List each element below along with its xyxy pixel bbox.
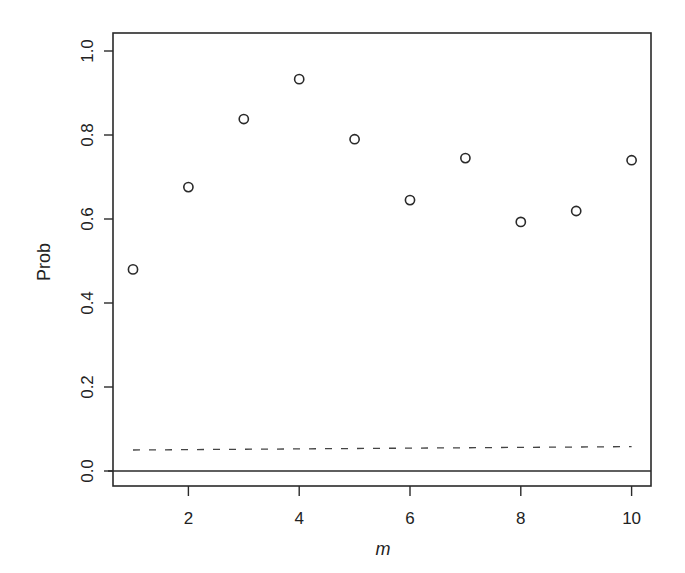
data-points <box>128 75 636 274</box>
plot-frame <box>113 33 651 486</box>
scatter-chart: 0.00.20.40.60.81.0 246810 m Prob <box>0 0 685 573</box>
y-axis: 0.00.20.40.60.81.0 <box>78 39 113 483</box>
data-point <box>128 265 137 274</box>
data-point <box>405 196 414 205</box>
y-tick-label: 0.8 <box>78 123 97 147</box>
data-point <box>627 156 636 165</box>
data-point <box>516 217 525 226</box>
y-tick-label: 0.4 <box>78 291 97 315</box>
y-tick-label: 0.0 <box>78 459 97 483</box>
data-point <box>184 182 193 191</box>
x-tick-label: 6 <box>405 509 414 528</box>
reference-lines <box>108 447 651 471</box>
y-axis-title: Prob <box>34 243 54 281</box>
x-tick-label: 10 <box>622 509 641 528</box>
x-axis: 246810 <box>184 486 641 528</box>
x-tick-label: 4 <box>294 509 303 528</box>
y-tick-label: 0.6 <box>78 207 97 231</box>
x-tick-label: 8 <box>516 509 525 528</box>
plot-border <box>113 33 651 486</box>
data-point <box>239 114 248 123</box>
data-point <box>572 206 581 215</box>
x-tick-label: 2 <box>184 509 193 528</box>
data-point <box>295 75 304 84</box>
dashed-reference-line <box>133 447 632 450</box>
y-tick-label: 0.2 <box>78 375 97 399</box>
data-point <box>461 154 470 163</box>
y-tick-label: 1.0 <box>78 39 97 63</box>
x-axis-title: m <box>376 539 391 559</box>
data-point <box>350 135 359 144</box>
